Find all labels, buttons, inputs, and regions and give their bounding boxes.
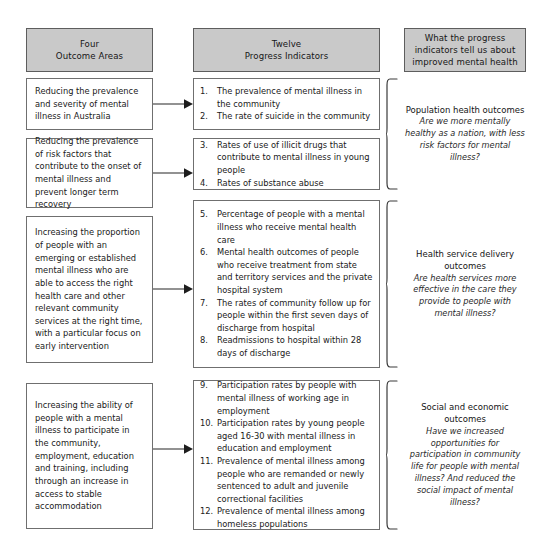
outcome-area-box-1: Reducing the prevalence and severity of …	[26, 78, 153, 130]
indicator-number: 9.	[200, 379, 217, 417]
indicator-text: Mental health outcomes of people who rec…	[217, 246, 373, 296]
arrow-outcome-2-to-indicators	[153, 165, 193, 181]
indicator-group-box-1: 1. The prevalence of mental illness in t…	[193, 78, 380, 130]
brace-health-service-delivery	[385, 200, 399, 368]
indicator-text: Prevalence of mental illness among homel…	[217, 505, 373, 530]
indicator-text: The prevalence of mental illness in the …	[217, 85, 373, 110]
indicator-number: 11.	[200, 455, 217, 505]
indicator-item: 4. Rates of substance abuse	[200, 177, 373, 190]
indicator-item: 8. Readmissions to hospital within 28 da…	[200, 334, 373, 359]
indicator-item: 9. Participation rates by people with me…	[200, 379, 373, 417]
indicator-item: 5. Percentage of people with a mental il…	[200, 208, 373, 246]
indicator-item: 11. Prevalence of mental illness among p…	[200, 455, 373, 505]
indicator-text: Rates of use of illicit drugs that contr…	[217, 139, 373, 177]
summary-title: Social and economic outcomes	[405, 401, 525, 426]
indicator-number: 2.	[200, 110, 217, 123]
brace-social-and-economic	[385, 380, 399, 530]
indicator-item: 3. Rates of use of illicit drugs that co…	[200, 139, 373, 177]
header-line-3: improved mental health	[412, 56, 517, 68]
indicator-text: Readmissions to hospital within 28 days …	[217, 334, 373, 359]
indicator-text: Percentage of people with a mental illne…	[217, 208, 373, 246]
indicator-item: 12. Prevalence of mental illness among h…	[200, 505, 373, 530]
brace-population-health	[385, 78, 399, 190]
progress-indicator-framework-diagram: Four Outcome Areas Twelve Progress Indic…	[0, 0, 545, 543]
indicator-number: 5.	[200, 208, 217, 246]
indicator-number: 10.	[200, 417, 217, 455]
indicator-text: Participation rates by young people aged…	[217, 417, 373, 455]
indicator-number: 6.	[200, 246, 217, 296]
header-twelve-progress-indicators: Twelve Progress Indicators	[193, 28, 380, 72]
indicator-number: 4.	[200, 177, 217, 190]
summary-question: Have we increased opportunities for part…	[405, 426, 525, 509]
outcome-area-box-4: Increasing the ability of people with a …	[26, 383, 153, 529]
outcome-area-text: Reducing the prevalence and severity of …	[35, 85, 145, 123]
indicator-text: The rates of community follow up for peo…	[217, 297, 373, 335]
arrow-outcome-3-to-indicators	[153, 281, 193, 297]
indicator-number: 7.	[200, 297, 217, 335]
summary-health-service-delivery: Health service delivery outcomes Are hea…	[399, 200, 531, 368]
indicator-group-box-2: 3. Rates of use of illicit drugs that co…	[193, 138, 380, 190]
outcome-area-text: Increasing the ability of people with a …	[35, 399, 145, 512]
outcome-area-text: Reducing the prevalence of risk factors …	[35, 135, 145, 211]
outcome-area-text: Increasing the proportion of people with…	[35, 226, 145, 352]
arrow-outcome-1-to-indicators	[153, 96, 193, 112]
indicator-list: 1. The prevalence of mental illness in t…	[200, 85, 373, 123]
summary-question: Are health services more effective in th…	[405, 273, 525, 321]
header-line-1: Four	[56, 38, 123, 50]
indicator-item: 2. The rate of suicide in the community	[200, 110, 373, 123]
indicator-item: 7. The rates of community follow up for …	[200, 297, 373, 335]
header-line-2: Outcome Areas	[56, 50, 123, 62]
indicator-group-box-3: 5. Percentage of people with a mental il…	[193, 200, 380, 368]
indicator-item: 10. Participation rates by young people …	[200, 417, 373, 455]
indicator-text: Rates of substance abuse	[217, 177, 373, 190]
header-line-2: Progress Indicators	[245, 50, 329, 62]
indicator-text: Participation rates by people with menta…	[217, 379, 373, 417]
header-line-2: indicators tell us about	[412, 44, 517, 56]
indicator-group-box-4: 9. Participation rates by people with me…	[193, 380, 380, 530]
outcome-area-box-3: Increasing the proportion of people with…	[26, 216, 153, 363]
summary-title: Population health outcomes	[406, 104, 525, 116]
summary-title: Health service delivery outcomes	[405, 248, 525, 273]
summary-social-and-economic: Social and economic outcomes Have we inc…	[399, 380, 531, 530]
indicator-number: 3.	[200, 139, 217, 177]
indicator-text: The rate of suicide in the community	[217, 110, 373, 123]
outcome-area-box-2: Reducing the prevalence of risk factors …	[26, 138, 153, 208]
indicator-number: 8.	[200, 334, 217, 359]
summary-population-health: Population health outcomes Are we more m…	[399, 78, 531, 190]
indicator-list: 5. Percentage of people with a mental il…	[200, 208, 373, 359]
indicator-number: 12.	[200, 505, 217, 530]
indicator-item: 6. Mental health outcomes of people who …	[200, 246, 373, 296]
indicator-item: 1. The prevalence of mental illness in t…	[200, 85, 373, 110]
arrow-outcome-4-to-indicators	[153, 441, 193, 457]
header-four-outcome-areas: Four Outcome Areas	[26, 28, 153, 72]
header-line-1: Twelve	[245, 38, 329, 50]
indicator-text: Prevalence of mental illness among peopl…	[217, 455, 373, 505]
summary-question: Are we more mentally healthy as a nation…	[405, 116, 525, 164]
indicator-number: 1.	[200, 85, 217, 110]
indicator-list: 9. Participation rates by people with me…	[200, 379, 373, 530]
indicator-list: 3. Rates of use of illicit drugs that co…	[200, 139, 373, 189]
header-what-indicators-tell-us: What the progress indicators tell us abo…	[404, 28, 526, 72]
header-line-1: What the progress	[412, 32, 517, 44]
